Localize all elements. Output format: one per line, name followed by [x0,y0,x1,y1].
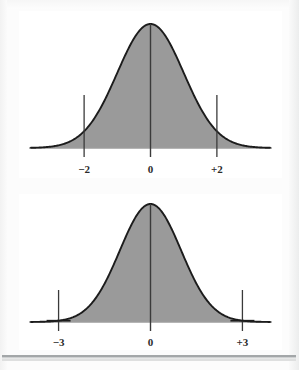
x-tick-label-zero-top: 0 [148,163,154,175]
footer-rule-shadow [2,359,296,361]
x-tick-label-minus3: −3 [53,336,65,348]
page-edge-right [289,0,299,370]
chart-panel-top: −2 0 +2 [19,11,282,178]
x-tick-label-zero-bottom: 0 [148,336,154,348]
chart-panel-bottom: −3 0 +3 [19,194,282,350]
x-tick-label-minus2: −2 [78,163,90,175]
x-tick-label-plus2: +2 [211,163,223,175]
page-edge-top [0,0,299,9]
normal-curve-3sd-chart: −3 0 +3 [19,194,282,350]
page-edge-left [0,0,7,370]
x-tick-label-plus3: +3 [237,336,249,348]
normal-curve-2sd-chart: −2 0 +2 [19,11,282,178]
figure-page: −2 0 +2 −3 0 +3 [0,0,299,370]
